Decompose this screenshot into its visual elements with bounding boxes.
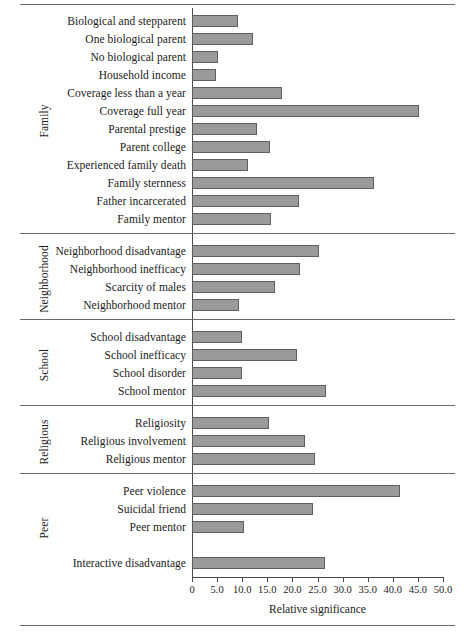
group-separator bbox=[20, 233, 455, 234]
bar bbox=[192, 367, 242, 379]
bar-row: Peer mentor bbox=[0, 518, 466, 536]
bar-category-label: Suicidal friend bbox=[117, 500, 192, 518]
bar bbox=[192, 213, 271, 225]
group-label-text: Religious bbox=[38, 419, 50, 464]
bar-category-label: Coverage less than a year bbox=[67, 84, 192, 102]
bar-category-label: Biological and stepparent bbox=[67, 12, 192, 30]
bar-category-label: School inefficacy bbox=[105, 346, 192, 364]
bar bbox=[192, 349, 297, 361]
bar-category-label: School disorder bbox=[113, 364, 192, 382]
bar-category-label: Household income bbox=[99, 66, 192, 84]
bar-row: Coverage full year bbox=[0, 102, 466, 120]
x-axis-tick bbox=[267, 577, 268, 582]
bar-row: One biological parent bbox=[0, 30, 466, 48]
bar-row: Biological and stepparent bbox=[0, 12, 466, 30]
x-axis-tick-label: 40.0 bbox=[384, 584, 402, 595]
bar-category-label: Religious involvement bbox=[81, 432, 193, 450]
plot-area: Biological and stepparentOne biological … bbox=[0, 8, 466, 577]
bar bbox=[192, 557, 325, 569]
x-axis-tick-label: 15.0 bbox=[258, 584, 276, 595]
bar-category-label: Religiosity bbox=[135, 414, 192, 432]
bar-category-label: Coverage full year bbox=[100, 102, 192, 120]
bar-category-label: School mentor bbox=[118, 382, 192, 400]
x-axis-tick-label: 50.0 bbox=[434, 584, 452, 595]
x-axis-tick bbox=[192, 577, 193, 582]
x-axis-label: Relative significance bbox=[192, 603, 443, 615]
bar bbox=[192, 263, 300, 275]
bar bbox=[192, 15, 238, 27]
bar bbox=[192, 69, 216, 81]
bar bbox=[192, 51, 218, 63]
bar bbox=[192, 485, 400, 497]
group-separator bbox=[20, 473, 455, 474]
x-axis-tick-label: 5.0 bbox=[211, 584, 224, 595]
x-axis-tick-label: 0 bbox=[189, 584, 194, 595]
group-separator bbox=[20, 405, 455, 406]
bar-category-label: Family mentor bbox=[117, 210, 192, 228]
bar bbox=[192, 105, 419, 117]
bar-row: Family sternness bbox=[0, 174, 466, 192]
bar-category-label: Scarcity of males bbox=[105, 278, 192, 296]
x-axis-tick-label: 35.0 bbox=[359, 584, 377, 595]
bar-row: School disorder bbox=[0, 364, 466, 382]
bar-category-label: Neighborhood disadvantage bbox=[55, 242, 192, 260]
x-axis-tick bbox=[217, 577, 218, 582]
bar bbox=[192, 299, 239, 311]
bar-row: Interactive disadvantage bbox=[0, 554, 466, 572]
bar-category-label: No biological parent bbox=[90, 48, 192, 66]
top-rule bbox=[20, 4, 455, 5]
bar bbox=[192, 87, 282, 99]
bar-row: Coverage less than a year bbox=[0, 84, 466, 102]
bar-category-label: Neighborhood mentor bbox=[83, 296, 192, 314]
bar-row: Religiosity bbox=[0, 414, 466, 432]
bar-row: School disadvantage bbox=[0, 328, 466, 346]
x-axis-tick bbox=[242, 577, 243, 582]
bar-row: Family mentor bbox=[0, 210, 466, 228]
bar-category-label: Experienced family death bbox=[67, 156, 192, 174]
bar-row: Neighborhood disadvantage bbox=[0, 242, 466, 260]
bar-row: Household income bbox=[0, 66, 466, 84]
x-axis-tick-label: 25.0 bbox=[308, 584, 326, 595]
bar-category-label: Peer mentor bbox=[130, 518, 192, 536]
group-label-text: Peer bbox=[38, 517, 50, 538]
x-axis-tick bbox=[318, 577, 319, 582]
bar bbox=[192, 195, 299, 207]
bar bbox=[192, 123, 257, 135]
bar bbox=[192, 435, 305, 447]
bar-row: Neighborhood inefficacy bbox=[0, 260, 466, 278]
bar-row: Religious involvement bbox=[0, 432, 466, 450]
x-axis-tick-label: 45.0 bbox=[409, 584, 427, 595]
bar bbox=[192, 521, 244, 533]
bar-category-label: Peer violence bbox=[123, 482, 192, 500]
group-label-text: Family bbox=[38, 104, 50, 137]
bar bbox=[192, 177, 374, 189]
x-axis-tick bbox=[418, 577, 419, 582]
x-axis-tick bbox=[443, 577, 444, 582]
bar-row: Neighborhood mentor bbox=[0, 296, 466, 314]
group-separator bbox=[20, 319, 455, 320]
bar-row: Father incarcerated bbox=[0, 192, 466, 210]
figure: Biological and stepparentOne biological … bbox=[0, 0, 466, 632]
bar-category-label: One biological parent bbox=[85, 30, 192, 48]
bar-category-label: Neighborhood inefficacy bbox=[70, 260, 192, 278]
x-axis: 05.010.015.020.025.030.035.040.045.050.0… bbox=[0, 577, 466, 632]
bar-row: Experienced family death bbox=[0, 156, 466, 174]
bar bbox=[192, 245, 319, 257]
x-axis-tick-label: 20.0 bbox=[283, 584, 301, 595]
bar-row: Peer violence bbox=[0, 482, 466, 500]
x-axis-tick-label: 10.0 bbox=[233, 584, 251, 595]
x-axis-tick bbox=[393, 577, 394, 582]
bar bbox=[192, 385, 326, 397]
bar bbox=[192, 281, 275, 293]
x-axis-tick bbox=[368, 577, 369, 582]
bar bbox=[192, 33, 253, 45]
bar bbox=[192, 159, 248, 171]
bar-row: Parent college bbox=[0, 138, 466, 156]
bar-row: School mentor bbox=[0, 382, 466, 400]
bar-row: No biological parent bbox=[0, 48, 466, 66]
bar-category-label bbox=[186, 536, 192, 554]
bar bbox=[192, 453, 315, 465]
bar-category-label: Father incarcerated bbox=[97, 192, 192, 210]
group-label-text: School bbox=[38, 348, 50, 381]
group-label-text: Neighborhood bbox=[38, 245, 50, 313]
